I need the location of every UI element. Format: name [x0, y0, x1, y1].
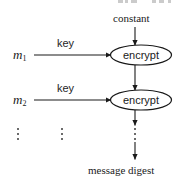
label-message-2: m2: [13, 93, 26, 106]
vertical-ellipsis-messages: [14, 128, 22, 143]
vertical-ellipsis-keys: [58, 128, 66, 143]
label-key-2: key: [57, 83, 74, 94]
label-message-2-base: m: [13, 92, 22, 107]
label-message-digest: message digest: [88, 165, 154, 176]
label-message-2-subscript: 2: [22, 99, 26, 108]
hash-chain-diagram: constant m1 m2 key key encrypt encrypt m…: [0, 0, 181, 182]
node-encrypt-2-label: encrypt: [111, 94, 171, 106]
diagram-wires: [0, 0, 181, 182]
node-encrypt-1-label: encrypt: [111, 49, 171, 61]
vertical-ellipsis-chain: [131, 128, 139, 143]
label-message-1: m1: [13, 48, 26, 61]
label-key-1: key: [57, 38, 74, 49]
label-message-1-subscript: 1: [22, 54, 26, 63]
label-constant: constant: [113, 13, 150, 24]
label-message-1-base: m: [13, 47, 22, 62]
